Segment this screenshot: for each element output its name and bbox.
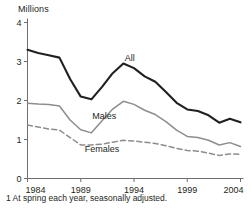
series-line-males xyxy=(28,101,241,146)
y-axis-tick-label: 2 xyxy=(16,96,21,106)
series-layer xyxy=(28,50,241,156)
series-label-females: Females xyxy=(85,144,120,154)
y-axis-tick-label: 0 xyxy=(16,174,21,184)
line-chart-plot: 0123419841989199419992004 AllMalesFemale… xyxy=(0,0,251,209)
series-label-all: All xyxy=(125,53,135,63)
axes-layer: 0123419841989199419992004 xyxy=(16,18,243,195)
series-label-males: Males xyxy=(92,111,117,121)
x-axis-tick-label: 2004 xyxy=(223,185,243,195)
series-labels-layer: AllMalesFemales xyxy=(85,53,135,154)
y-axis-tick-label: 1 xyxy=(16,135,21,145)
chart-container: Millions 0123419841989199419992004 AllMa… xyxy=(0,0,251,209)
y-axis-tick-label: 3 xyxy=(16,57,21,67)
y-axis-tick-label: 4 xyxy=(16,18,21,28)
chart-footnote: 1 At spring each year, seasonally adjust… xyxy=(6,193,167,203)
x-axis-tick-label: 1999 xyxy=(177,185,197,195)
